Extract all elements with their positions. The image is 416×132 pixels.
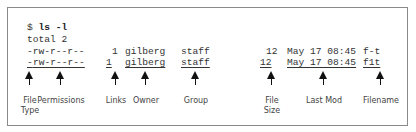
row1-owner: gilberg bbox=[125, 46, 165, 57]
label-owner: Owner bbox=[128, 96, 164, 106]
row2-name: f1t bbox=[363, 57, 380, 68]
row2-links: 1 bbox=[106, 57, 112, 68]
row2-type: - bbox=[27, 57, 33, 68]
row2-owner: gilberg bbox=[125, 57, 165, 68]
row2-date: May 17 08:45 bbox=[287, 57, 356, 68]
total-line: total 2 bbox=[27, 34, 67, 45]
label-links: Links bbox=[101, 96, 131, 106]
row1-perms: -rw-r--r-- bbox=[27, 46, 85, 57]
arrow-up-icon bbox=[376, 71, 385, 85]
arrow-up-icon bbox=[25, 71, 34, 85]
prompt: $ bbox=[27, 22, 39, 33]
arrow-up-icon bbox=[267, 71, 276, 85]
row1-date: May 17 08:45 bbox=[287, 46, 356, 57]
arrow-up-icon bbox=[141, 71, 150, 85]
arrow-up-icon bbox=[111, 71, 120, 85]
command: ls -l bbox=[39, 22, 68, 33]
row2-size: 12 bbox=[260, 57, 272, 68]
row1-size: 12 bbox=[266, 46, 278, 57]
command-line: $ ls -l bbox=[27, 22, 67, 33]
label-file-size: File Size bbox=[258, 96, 286, 116]
row1-links: 1 bbox=[112, 46, 118, 57]
arrow-up-icon bbox=[56, 71, 65, 85]
row1-name: f-t bbox=[363, 46, 380, 57]
label-last-mod: Last Mod bbox=[300, 96, 348, 106]
arrow-up-icon bbox=[319, 71, 328, 85]
label-permissions: Permissions bbox=[36, 96, 86, 106]
label-group: Group bbox=[178, 96, 214, 106]
row2-perms: rw-r--r-- bbox=[33, 57, 85, 68]
row1-group: staff bbox=[181, 46, 210, 57]
row2-group: staff bbox=[181, 57, 210, 68]
arrow-up-icon bbox=[191, 71, 200, 85]
label-filename: Filename bbox=[358, 96, 404, 106]
